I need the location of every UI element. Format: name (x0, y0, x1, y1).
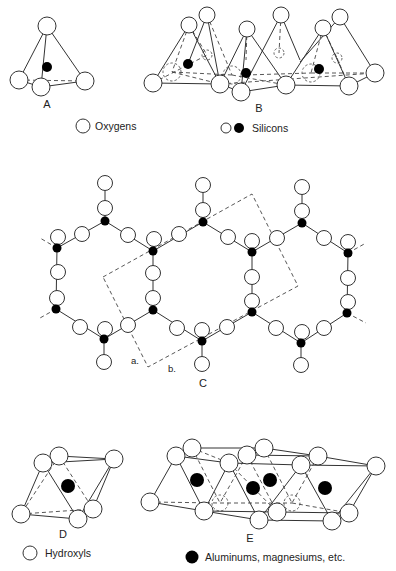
legend-hydroxyls-text: Hydroxyls (45, 547, 91, 559)
oxygen-atom-icon (51, 265, 66, 280)
oxygen-atom-icon (50, 291, 65, 306)
legend-cations-text: Aluminums, magnesiums, etc. (205, 551, 345, 563)
tetrahedron-edge (340, 17, 375, 73)
hydroxyl-atom-icon (309, 447, 327, 465)
axis-label-b: b. (168, 363, 176, 374)
silicon-atom-icon (344, 249, 353, 258)
silicon-atom-icon (101, 217, 110, 226)
hydroxyl-atom-icon (238, 446, 256, 464)
oxygen-atom-icon (277, 76, 295, 94)
oxygen-atom-icon (341, 295, 356, 310)
tetrahedron-edge (323, 28, 349, 86)
octahedron-edge (259, 520, 332, 521)
oxygen-atom-icon (245, 294, 260, 309)
oxygen-atom-icon (98, 201, 113, 216)
oxygen-atom-icon (98, 176, 113, 191)
cation-atom-icon (246, 481, 260, 495)
hydroxyl-atom-icon (167, 447, 185, 465)
label-b: B (255, 102, 262, 114)
oxygen-atom-icon (245, 234, 260, 249)
oxygen-atom-icon (146, 266, 161, 281)
silicon-atom-icon (100, 335, 109, 344)
label-d: D (59, 528, 67, 540)
oxygen-atom-icon (332, 9, 348, 25)
silicon-atom-icon (149, 247, 158, 256)
silicon-atom-icon (241, 68, 251, 78)
panel-c-hexagonal-sheet (40, 176, 366, 373)
hydroxyl-atom-icon (250, 511, 268, 529)
cation-atom-icon (190, 473, 204, 487)
octahedron-edge (229, 463, 301, 465)
oxygen-atom-icon (366, 64, 384, 82)
tetrahedron-edge (153, 25, 189, 83)
oxygen-atom-icon (199, 7, 215, 23)
oxygen-atom-icon (10, 71, 28, 89)
octahedron-edge (301, 465, 376, 466)
silicon-atom-icon (297, 339, 306, 348)
oxygen-atom-icon (220, 320, 235, 335)
oxygen-atom-icon (51, 230, 66, 245)
oxygen-atom-icon (97, 355, 112, 370)
oxygen-atom-icon (269, 321, 284, 336)
label-e: E (246, 532, 253, 544)
oxygen-atom-icon (147, 232, 162, 247)
oxygen-atom-icon (196, 178, 211, 193)
hydroxyl-atom-icon (12, 505, 30, 523)
legend-oxygen-icon (76, 119, 90, 133)
oxygen-atom-icon (295, 325, 310, 340)
oxygen-atom-icon (170, 321, 185, 336)
octahedron-edge (277, 512, 349, 513)
hydroxyl-atom-icon (50, 447, 68, 465)
oxygen-atom-icon (172, 227, 187, 242)
panel-a-tetrahedron (10, 17, 94, 133)
oxygen-atom-icon (38, 17, 56, 35)
oxygen-atom-icon (294, 358, 309, 373)
oxygen-atom-icon (121, 228, 136, 243)
silicon-atom-icon (42, 62, 52, 72)
legend-silicons-text: Silicons (252, 122, 288, 134)
oxygen-atom-icon (245, 270, 260, 285)
silicon-atom-icon (149, 306, 158, 315)
legend-cation-icon (186, 551, 199, 564)
legend-silicon-filled-icon (234, 123, 244, 133)
label-c: C (199, 377, 207, 389)
legend-silicon-open-icon (221, 123, 231, 133)
silicon-atom-icon (52, 305, 61, 314)
oxygen-atom-icon (211, 75, 229, 93)
oxygen-atom-icon (196, 203, 211, 218)
oxygen-atom-icon (181, 17, 197, 33)
silicon-atom-icon (198, 337, 207, 346)
oxygen-atom-icon (341, 235, 356, 250)
silicon-atom-icon (298, 219, 307, 228)
hydroxyl-atom-icon (84, 500, 102, 518)
legend-oxygens-text: Oxygens (95, 120, 136, 132)
cation-atom-icon (263, 473, 277, 487)
hydroxyl-atom-icon (195, 502, 213, 520)
oxygen-atom-icon (317, 231, 332, 246)
silicon-atom-icon (248, 248, 257, 257)
hydroxyl-atom-icon (105, 450, 123, 468)
oxygen-atom-icon (340, 77, 358, 95)
oxygen-atom-icon (76, 72, 94, 90)
hydroxyl-atom-icon (292, 456, 310, 474)
oxygen-atom-icon (273, 7, 289, 23)
silicon-atom-icon (199, 218, 208, 227)
tetrahedron-edge (153, 83, 220, 84)
tetrahedron-edge (189, 25, 220, 84)
oxygen-atom-icon (239, 21, 255, 37)
silicon-atom-icon (248, 308, 257, 317)
axis-label-a: a. (131, 355, 139, 366)
oxygen-atom-icon (295, 204, 310, 219)
silicon-atom-icon (53, 244, 62, 253)
oxygen-atom-icon (315, 20, 331, 36)
label-a: A (43, 98, 51, 110)
cation-atom-icon (318, 481, 332, 495)
silicon-atom-icon (183, 59, 193, 69)
panel-d-octahedron (12, 447, 123, 560)
hydroxyl-atom-icon (141, 493, 159, 511)
cation-atom-icon (61, 479, 75, 493)
hidden-edge (19, 80, 85, 81)
hydroxyl-atom-icon (367, 457, 385, 475)
oxygen-atom-icon (295, 180, 310, 195)
silicon-atom-icon (314, 64, 324, 74)
